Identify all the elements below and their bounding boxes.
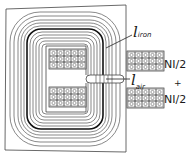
coil-outer-top — [127, 51, 164, 71]
plus-sign: + — [174, 79, 182, 88]
l-air-label: lair — [131, 72, 145, 88]
coil-bottom-label: NI/2 — [164, 94, 186, 105]
coil-outer-bottom — [127, 88, 164, 108]
coil-inner-bottom — [49, 87, 86, 107]
coil-inner-top — [49, 49, 86, 69]
coil-top-label: NI/2 — [164, 59, 186, 70]
l-iron-leader — [106, 35, 132, 48]
magnetic-circuit-diagram — [0, 0, 190, 160]
l-iron-label: liron — [133, 24, 151, 40]
